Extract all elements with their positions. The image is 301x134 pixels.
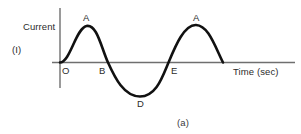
origin-label: O — [62, 65, 70, 76]
x-axis-title: Time (sec) — [233, 66, 279, 78]
y-axis-title-line1: Current — [23, 21, 55, 32]
y-axis-title: Current (I) — [12, 9, 55, 78]
peak-label-a-first: A — [83, 12, 89, 23]
zero-crossing-label-e: E — [171, 65, 177, 76]
figure-caption: (a) — [177, 117, 189, 128]
sine-wave-curve — [60, 25, 223, 97]
zero-crossing-label-b: B — [99, 65, 105, 76]
ac-waveform-figure: Current (I) Time (sec) A O B D E A (a) — [0, 0, 301, 134]
trough-label-d: D — [137, 98, 144, 109]
y-axis-title-line2: (I) — [12, 44, 55, 56]
peak-label-a-second: A — [193, 12, 199, 23]
